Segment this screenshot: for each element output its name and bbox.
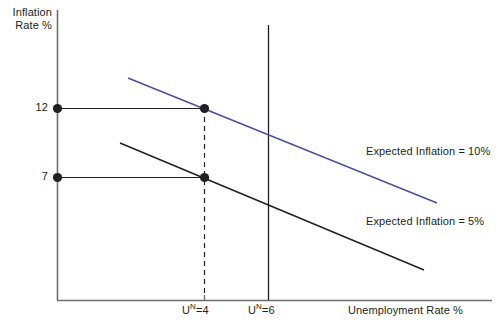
chart-plot-area (0, 0, 498, 336)
x-tick-label-un6: UN=6 (248, 304, 275, 317)
x-tick-un4-tail: =4 (196, 304, 209, 316)
marker-point-un4-7 (200, 173, 209, 182)
y-axis-title: Inflation Rate % (4, 6, 52, 32)
phillips-curve-expected-10 (128, 78, 437, 203)
annotation-expected-inflation-10: Expected Inflation = 10% (366, 145, 490, 158)
y-tick-label-7: 7 (22, 170, 48, 183)
marker-intercept-7 (53, 173, 62, 182)
x-tick-label-un4: UN=4 (182, 304, 209, 317)
x-tick-un4-base: U (182, 304, 190, 316)
x-axis-title: Unemployment Rate % (348, 304, 463, 317)
phillips-curve-expected-5 (120, 143, 424, 270)
y-tick-label-12: 12 (22, 101, 48, 114)
y-axis-title-line1: Inflation (13, 6, 52, 18)
y-axis-title-line2: Rate % (15, 19, 52, 31)
x-tick-un6-base: U (248, 304, 256, 316)
marker-intercept-12 (53, 104, 62, 113)
marker-point-un4-12 (200, 104, 209, 113)
annotation-expected-inflation-5: Expected Inflation = 5% (366, 215, 484, 228)
x-tick-un6-tail: =6 (262, 304, 275, 316)
phillips-curve-chart: Inflation Rate % Unemployment Rate % 12 … (0, 0, 498, 336)
